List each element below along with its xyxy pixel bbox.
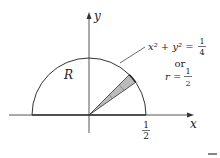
x-tick-half: 1 2 [142, 120, 150, 141]
svg-text:2: 2 [143, 131, 149, 141]
annotation-leader-line [120, 47, 145, 63]
svg-text:or: or [175, 58, 186, 69]
polar-region-diagram: y x R 1 2 x² + y² = 1 4 or r = 1 2 [0, 0, 220, 158]
shaded-wedge [89, 75, 136, 115]
svg-text:4: 4 [199, 48, 204, 57]
x-axis-label: x [190, 117, 197, 131]
region-label: R [63, 68, 73, 82]
svg-text:r =: r = [165, 71, 181, 82]
y-axis-label: y [93, 9, 101, 23]
svg-text:1: 1 [199, 37, 204, 46]
svg-text:1: 1 [143, 120, 149, 130]
svg-text:1: 1 [185, 67, 190, 76]
svg-text:x² + y² =: x² + y² = [148, 41, 194, 52]
equation-annotation: x² + y² = 1 4 or r = 1 2 [148, 37, 206, 88]
svg-text:2: 2 [185, 79, 190, 88]
